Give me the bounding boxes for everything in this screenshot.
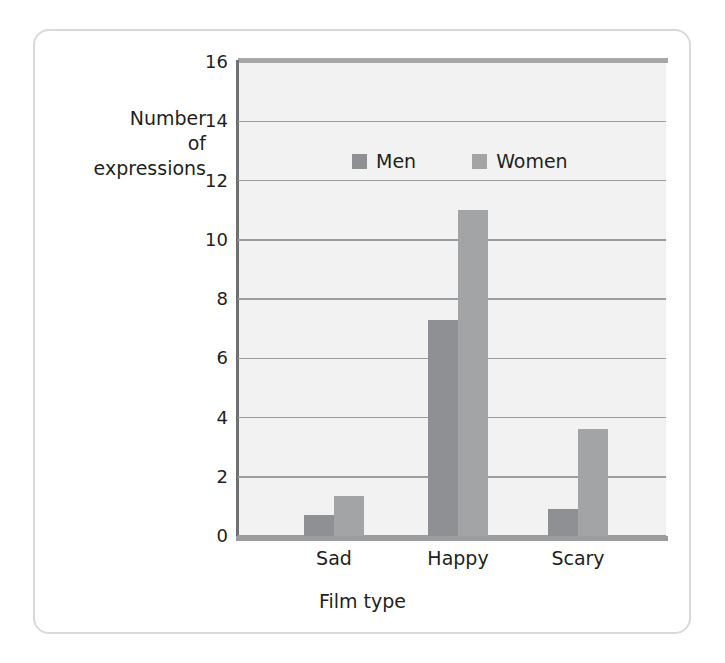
chart-figure: Number of expressions 0246810121416 SadH… (0, 0, 725, 663)
legend-entry-women: Women (472, 152, 568, 171)
x-tick-label: Happy (398, 547, 518, 569)
y-tick-label: 6 (182, 349, 228, 367)
legend-label: Men (376, 152, 416, 171)
chart-legend: MenWomen (352, 152, 568, 171)
bar-sad-women (334, 496, 364, 536)
x-axis-line (236, 536, 668, 541)
gridline (238, 121, 666, 123)
y-tick-label: 10 (182, 231, 228, 249)
legend-label: Women (496, 152, 568, 171)
y-tick-label: 12 (182, 172, 228, 190)
y-tick-label: 8 (182, 290, 228, 308)
gridline (238, 239, 666, 241)
y-tick-label: 4 (182, 409, 228, 427)
x-axis-title: Film type (0, 590, 725, 612)
plot-top-gridline (238, 58, 668, 63)
x-tick-label: Scary (518, 547, 638, 569)
bar-scary-men (548, 509, 578, 536)
gridline (238, 298, 666, 300)
square-swatch-icon (472, 154, 487, 169)
y-tick-label: 0 (182, 527, 228, 545)
bar-scary-women (578, 429, 608, 536)
square-swatch-icon (352, 154, 367, 169)
bar-sad-men (304, 515, 334, 536)
bar-happy-men (428, 320, 458, 536)
x-tick-label: Sad (274, 547, 394, 569)
bar-happy-women (458, 210, 488, 536)
y-tick-label: 2 (182, 468, 228, 486)
y-tick-label: 14 (182, 112, 228, 130)
legend-entry-men: Men (352, 152, 416, 171)
gridline (238, 180, 666, 182)
y-tick-label: 16 (182, 53, 228, 71)
